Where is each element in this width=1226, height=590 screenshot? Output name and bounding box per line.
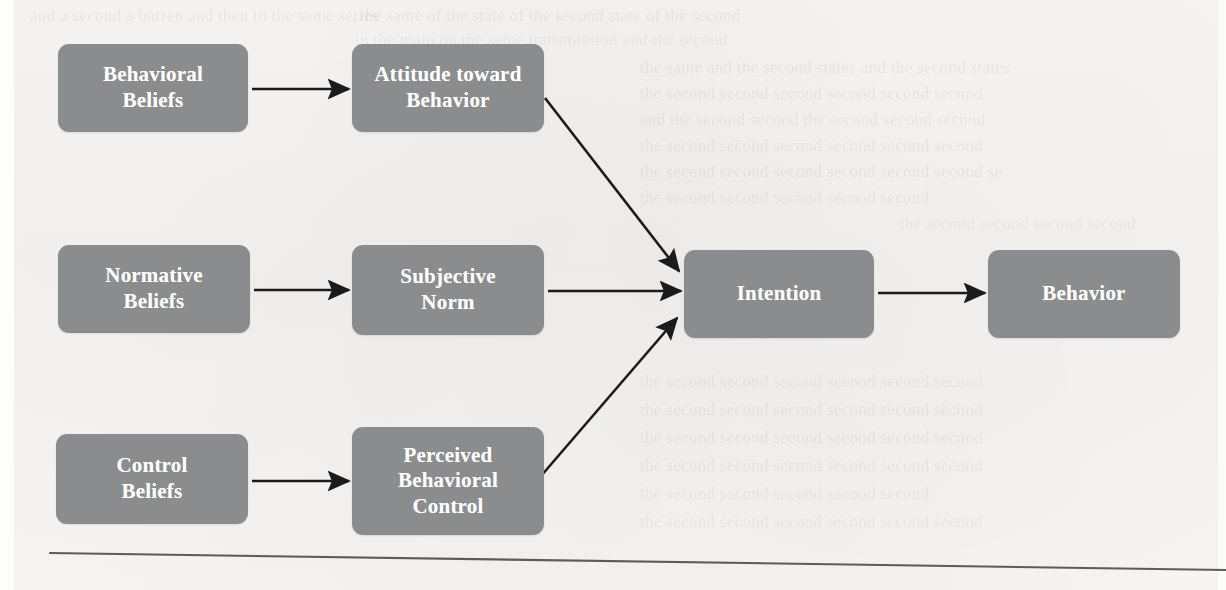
footer-rule xyxy=(50,553,1226,570)
arrow-perceived-control-to-intention xyxy=(541,318,677,476)
left-margin-strip xyxy=(0,0,14,590)
ghost-text-line: the second second second second second xyxy=(640,484,929,504)
node-normative-beliefs: NormativeBeliefs xyxy=(58,245,250,333)
node-label-line1: Intention xyxy=(737,281,822,307)
right-margin-strip xyxy=(1218,0,1226,590)
ghost-text-line: the same of the state of the second stat… xyxy=(360,6,740,26)
node-intention: Intention xyxy=(684,250,874,338)
ghost-text-line: the second second second second second s… xyxy=(640,372,983,392)
ghost-text-line: the second second second second second s… xyxy=(640,400,983,420)
node-label-group: NormativeBeliefs xyxy=(105,263,202,314)
node-label-line2: Behavior xyxy=(374,88,521,114)
node-label-line2: Behavioral xyxy=(398,468,498,494)
node-label-line2: Beliefs xyxy=(105,289,202,315)
node-subjective-norm: SubjectiveNorm xyxy=(352,245,544,335)
ghost-text-line: the second second second second second xyxy=(640,188,929,208)
node-label-line1: Subjective xyxy=(400,264,495,290)
node-control-beliefs: ControlBeliefs xyxy=(56,434,248,524)
node-label-line1: Behavioral xyxy=(103,62,203,88)
ghost-text-line: the second second second second second s… xyxy=(640,136,983,156)
node-label-group: Intention xyxy=(737,281,822,307)
node-label-group: PerceivedBehavioralControl xyxy=(398,443,498,520)
ghost-text-line: and a second a barren and then in the sa… xyxy=(30,6,379,26)
ghost-text-line: the second second second second second s… xyxy=(640,84,983,104)
node-label-line1: Control xyxy=(116,453,187,479)
ghost-text-line: the second second second second second s… xyxy=(640,428,983,448)
node-label-line1: Behavior xyxy=(1042,281,1125,307)
node-label-line3: Control xyxy=(398,494,498,520)
node-label-line2: Beliefs xyxy=(116,479,187,505)
node-label-line1: Perceived xyxy=(398,443,498,469)
node-label-line2: Beliefs xyxy=(103,88,203,114)
ghost-text-line: the same and the second states and the s… xyxy=(640,58,1010,78)
node-label-group: ControlBeliefs xyxy=(116,453,187,504)
ghost-text-line: the second second second second xyxy=(900,214,1136,234)
node-label-group: Attitude towardBehavior xyxy=(374,62,521,113)
node-label-group: SubjectiveNorm xyxy=(400,264,495,315)
node-label-line1: Normative xyxy=(105,263,202,289)
ghost-text-line: the second second second second second s… xyxy=(640,162,1002,182)
arrow-attitude-to-intention xyxy=(545,98,679,271)
node-behavioral-beliefs: BehavioralBeliefs xyxy=(58,44,248,132)
ghost-text-line: the second second second second second s… xyxy=(640,456,983,476)
ghost-text-line: the second second second second second s… xyxy=(640,512,983,532)
node-label-line1: Attitude toward xyxy=(374,62,521,88)
ghost-text-line: and the second second the second second … xyxy=(640,110,986,130)
node-label-line2: Norm xyxy=(400,290,495,316)
node-attitude-toward-behavior: Attitude towardBehavior xyxy=(352,44,544,132)
node-label-group: BehavioralBeliefs xyxy=(103,62,203,113)
node-label-group: Behavior xyxy=(1042,281,1125,307)
figure-canvas: and a second a barren and then in the sa… xyxy=(0,0,1226,590)
node-perceived-behavioral-control: PerceivedBehavioralControl xyxy=(352,427,544,535)
node-behavior: Behavior xyxy=(988,250,1180,338)
